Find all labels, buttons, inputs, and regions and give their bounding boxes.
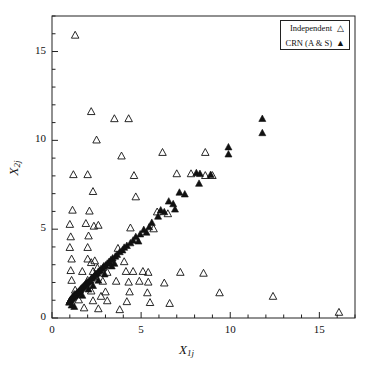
data-point (104, 297, 112, 304)
data-point (67, 233, 75, 240)
y-tick-label: 5 (18, 221, 46, 233)
data-point (177, 268, 185, 275)
data-point (84, 171, 92, 178)
series-crn-points (66, 115, 266, 309)
scatter-plot-figure: 051015051015 X1j X2j Independent △ CRN (… (0, 0, 373, 371)
data-point (66, 244, 74, 251)
data-point (84, 244, 92, 251)
data-point (68, 276, 76, 283)
data-point (85, 232, 93, 239)
data-point (125, 278, 133, 285)
data-point (102, 288, 110, 295)
legend-entry-crn: CRN (A & S) ▲ (281, 36, 349, 51)
data-point (118, 152, 126, 159)
data-point (130, 172, 138, 179)
data-point (66, 220, 74, 227)
data-point (173, 170, 181, 177)
data-point (216, 289, 224, 296)
data-point (225, 151, 232, 157)
data-point (69, 206, 77, 213)
x-tick-label: 10 (218, 323, 242, 335)
data-point (165, 198, 172, 204)
data-point (82, 220, 90, 227)
data-point (67, 267, 75, 274)
x-axis-label-base: X (179, 342, 187, 357)
data-point (161, 279, 169, 286)
open-triangle-icon: △ (336, 24, 345, 33)
data-point (95, 305, 103, 312)
data-point (146, 299, 154, 306)
y-axis-label: X2j (6, 138, 22, 198)
data-point (127, 224, 134, 231)
data-point (259, 129, 266, 135)
data-point (144, 278, 152, 285)
legend-label-crn: CRN (A & S) (285, 36, 332, 51)
data-point (335, 308, 343, 315)
data-point (71, 31, 79, 38)
data-point (126, 288, 133, 295)
data-point (123, 298, 131, 305)
data-point (120, 258, 128, 265)
data-point (176, 189, 183, 195)
data-point (129, 268, 137, 275)
data-point (70, 171, 78, 178)
data-point (112, 277, 120, 284)
data-point (259, 115, 266, 121)
y-axis-label-base: X (6, 168, 21, 176)
x-tick-label: 5 (129, 323, 153, 335)
y-axis-label-subscript: 2j (12, 161, 22, 168)
data-point (136, 277, 144, 284)
data-point (196, 180, 203, 186)
series-independent-points (66, 31, 343, 315)
data-point (86, 207, 94, 214)
y-tick-label: 0 (18, 310, 46, 322)
data-point (89, 297, 97, 304)
plot-canvas (0, 0, 373, 371)
filled-triangle-icon: ▲ (336, 39, 345, 48)
data-point (125, 115, 133, 122)
legend-entry-independent: Independent △ (281, 21, 349, 36)
x-axis-label: X1j (0, 342, 373, 358)
data-point (269, 292, 277, 299)
data-point (87, 108, 95, 115)
chart-legend: Independent △ CRN (A & S) ▲ (280, 20, 350, 50)
data-point (144, 289, 152, 296)
data-point (68, 255, 76, 262)
data-point (93, 136, 101, 143)
data-point (116, 306, 124, 313)
data-point (159, 149, 167, 156)
data-point (111, 115, 119, 122)
y-tick-label: 15 (18, 44, 46, 56)
data-point (225, 143, 232, 149)
data-point (122, 268, 130, 275)
x-tick-label: 15 (307, 323, 331, 335)
x-tick-label: 0 (40, 323, 64, 335)
data-point (97, 292, 105, 299)
data-point (79, 268, 87, 275)
data-point (202, 149, 210, 156)
data-point (80, 304, 88, 311)
legend-label-independent: Independent (290, 21, 332, 36)
data-point (132, 193, 140, 200)
data-point (166, 300, 174, 307)
data-point (89, 188, 97, 195)
x-axis-label-subscript: 1j (187, 348, 194, 358)
y-tick-label: 10 (18, 132, 46, 144)
data-point (200, 269, 208, 276)
